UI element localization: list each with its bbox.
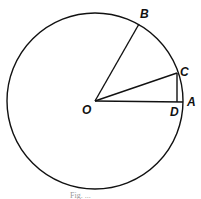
label-d: D bbox=[170, 106, 179, 118]
figure-caption: Fig. ... bbox=[70, 192, 91, 199]
label-b: B bbox=[140, 8, 149, 20]
label-c: C bbox=[180, 66, 189, 78]
segment-ob bbox=[95, 24, 139, 101]
label-o: O bbox=[82, 104, 91, 116]
segment-oc bbox=[95, 73, 177, 101]
label-a: A bbox=[187, 96, 196, 108]
circle-diagram bbox=[0, 0, 201, 199]
segment-oa bbox=[95, 101, 183, 102]
